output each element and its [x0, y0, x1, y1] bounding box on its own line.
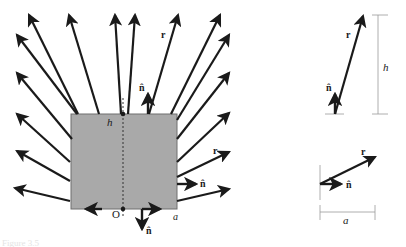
label-origin: O — [112, 208, 120, 220]
inset-top-label-h: h — [383, 61, 389, 73]
inset-bottom-label-r: r — [361, 146, 366, 157]
label-n-right: n̂ — [200, 178, 206, 189]
label-r-right: r — [213, 145, 218, 156]
label-n-top: n̂ — [139, 82, 145, 93]
inset-bottom-label-n: n̂ — [346, 179, 352, 190]
label-n-bottom: n̂ — [146, 225, 152, 236]
inset-bottom-label-a: a — [343, 214, 349, 226]
slab — [71, 114, 177, 209]
label-r-top: r — [161, 29, 166, 40]
label-a: a — [173, 211, 178, 222]
inset-top-label-n: n̂ — [326, 82, 332, 93]
inset-top: r n̂ h — [325, 15, 389, 114]
origin-point — [121, 207, 126, 212]
label-h: h — [107, 116, 113, 128]
diagram-canvas: h O a r r n̂ n̂ n̂ r n̂ h r n̂ a Figure … — [0, 0, 406, 247]
inset-bottom: r n̂ a — [320, 146, 375, 226]
caption: Figure 3.5 — [2, 238, 39, 247]
main-figure: h O a r r n̂ n̂ n̂ — [15, 15, 229, 236]
inset-top-label-r: r — [346, 29, 351, 40]
